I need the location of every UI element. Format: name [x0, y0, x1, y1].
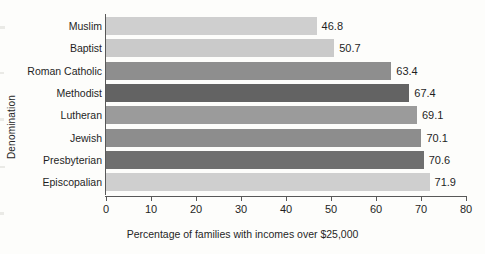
bar-row: Jewish70.1	[106, 129, 466, 147]
bar	[106, 129, 421, 147]
bar-value-label: 46.8	[322, 20, 343, 32]
x-axis-tick	[196, 196, 197, 201]
x-axis-title: Percentage of families with incomes over…	[0, 228, 485, 240]
bar-value-label: 71.9	[435, 176, 456, 188]
bar-row: Methodist67.4	[106, 84, 466, 102]
bar-row: Episcopalian71.9	[106, 173, 466, 191]
bar	[106, 17, 317, 35]
x-axis-tick-label: 30	[235, 203, 247, 215]
bar-value-label: 67.4	[414, 87, 435, 99]
bar	[106, 106, 417, 124]
category-label: Lutheran	[61, 109, 102, 121]
bar-row: Muslim46.8	[106, 17, 466, 35]
x-axis-tick	[286, 196, 287, 201]
category-label: Presbyterian	[43, 154, 102, 166]
bar	[106, 62, 391, 80]
bar-row: Roman Catholic63.4	[106, 62, 466, 80]
category-label: Episcopalian	[42, 176, 102, 188]
x-axis-tick-label: 50	[325, 203, 337, 215]
x-axis-tick-label: 20	[190, 203, 202, 215]
bar-value-label: 70.6	[429, 154, 450, 166]
y-axis-title: Denomination	[0, 0, 22, 254]
bar	[106, 151, 424, 169]
x-axis-tick	[331, 196, 332, 201]
x-axis-tick-label: 0	[103, 203, 109, 215]
category-label: Roman Catholic	[27, 65, 102, 77]
bar	[106, 173, 430, 191]
x-axis-tick	[421, 196, 422, 201]
plot-area: Muslim46.8Baptist50.7Roman Catholic63.4M…	[106, 14, 466, 195]
bar	[106, 39, 334, 57]
x-axis-tick-label: 40	[280, 203, 292, 215]
bar-value-label: 50.7	[339, 42, 360, 54]
bar-chart: Denomination Muslim46.8Baptist50.7Roman …	[0, 0, 485, 254]
x-axis-tick	[376, 196, 377, 201]
category-label: Jewish	[70, 132, 102, 144]
x-axis-tick-label: 60	[370, 203, 382, 215]
bar-row: Baptist50.7	[106, 39, 466, 57]
bar-value-label: 70.1	[426, 132, 447, 144]
category-label: Baptist	[70, 42, 102, 54]
x-axis-tick	[106, 196, 107, 201]
bar-value-label: 69.1	[422, 109, 443, 121]
x-axis-tick	[151, 196, 152, 201]
category-label: Methodist	[56, 87, 102, 99]
x-axis-tick	[241, 196, 242, 201]
category-label: Muslim	[69, 20, 102, 32]
bar-value-label: 63.4	[396, 65, 417, 77]
bar	[106, 84, 409, 102]
x-axis-tick-label: 10	[145, 203, 157, 215]
x-axis-tick-label: 80	[460, 203, 472, 215]
bar-row: Lutheran69.1	[106, 106, 466, 124]
x-axis-tick	[466, 196, 467, 201]
x-axis-tick-label: 70	[415, 203, 427, 215]
bar-row: Presbyterian70.6	[106, 151, 466, 169]
